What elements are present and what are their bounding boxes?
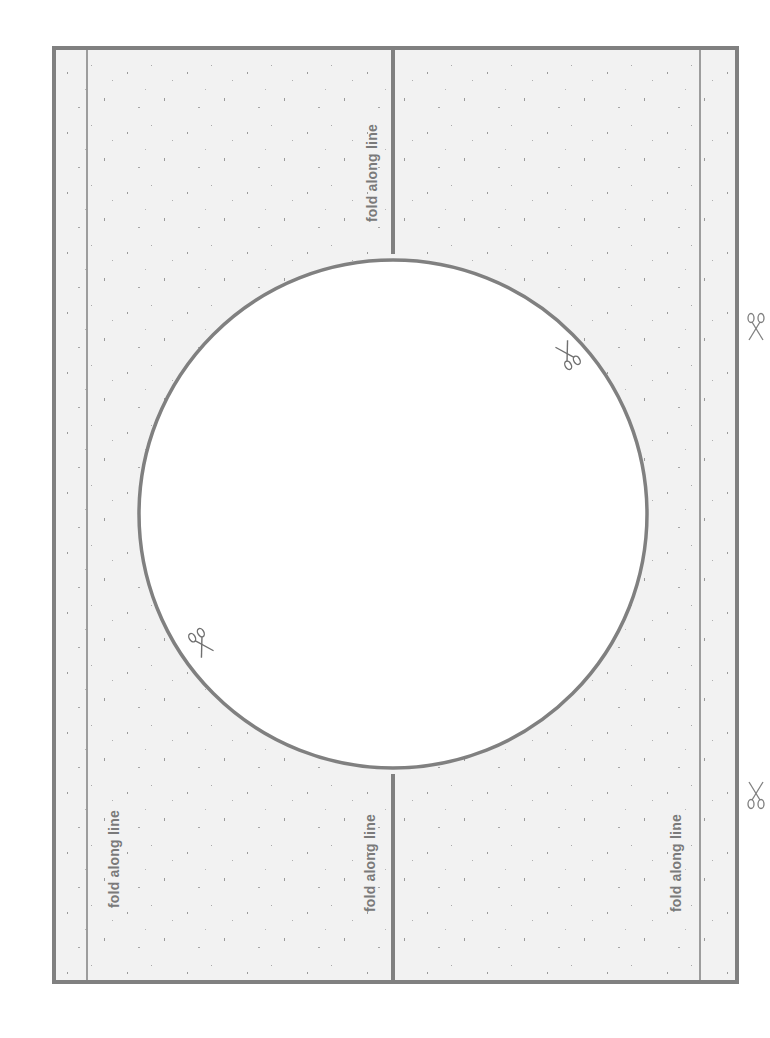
scissors-icon	[745, 780, 767, 810]
fold-label: fold along line	[106, 810, 122, 908]
foldable-circle-template: fold along line fold along line fold alo…	[0, 0, 770, 1038]
fold-label: fold along line	[364, 124, 380, 222]
fold-label: fold along line	[362, 814, 378, 912]
fold-label: fold along line	[668, 814, 684, 912]
scissors-icon	[745, 312, 767, 342]
cut-circle	[139, 260, 647, 768]
